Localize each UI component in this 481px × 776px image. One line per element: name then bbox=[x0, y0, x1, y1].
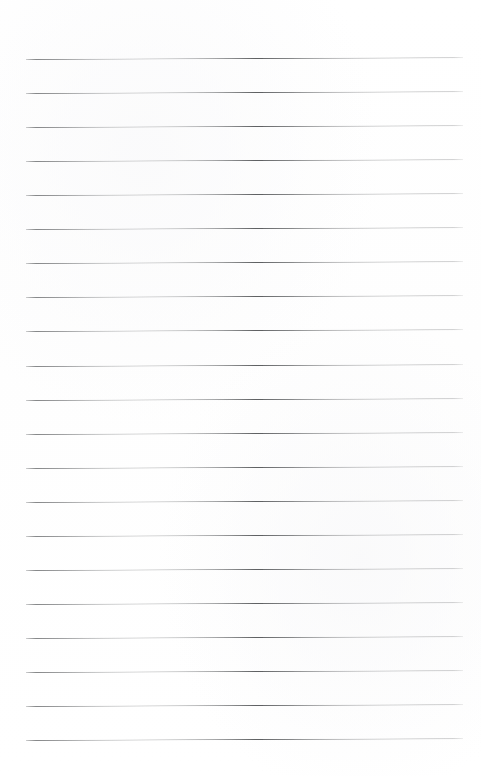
rule-line bbox=[26, 568, 463, 571]
rule-line bbox=[26, 228, 463, 231]
rule-line bbox=[26, 636, 463, 639]
rule-line bbox=[26, 534, 463, 537]
rule-line bbox=[26, 57, 463, 60]
rule-line bbox=[26, 704, 463, 707]
rule-line bbox=[26, 738, 463, 741]
rule-line bbox=[26, 602, 463, 605]
rule-line bbox=[26, 125, 463, 128]
rule-line bbox=[26, 194, 463, 197]
rule-line bbox=[26, 91, 463, 94]
rule-line bbox=[26, 262, 463, 265]
rule-line bbox=[26, 296, 463, 299]
rule-line bbox=[26, 432, 463, 435]
rule-line bbox=[26, 670, 463, 673]
rule-line bbox=[26, 330, 463, 333]
paper-texture bbox=[0, 0, 481, 776]
rule-line bbox=[26, 398, 463, 401]
rule-line bbox=[26, 466, 463, 469]
rule-line bbox=[26, 160, 463, 163]
lined-paper-page bbox=[0, 0, 481, 776]
rule-line bbox=[26, 364, 463, 367]
rule-line bbox=[26, 500, 463, 503]
